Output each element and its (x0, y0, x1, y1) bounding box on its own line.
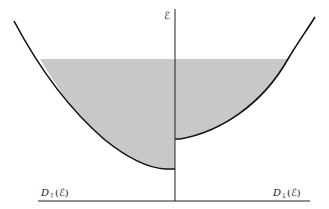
spin-up-label-main: D (40, 187, 49, 198)
spin-up-occupied-fill (40, 59, 175, 169)
spin-down-axis-label: D↓(ℰ) (272, 187, 301, 200)
spin-down-occupied-fill (175, 59, 288, 139)
spin-down-label-main: D (272, 187, 281, 198)
dos-diagram: ℰ D↑(ℰ) D↓(ℰ) (0, 0, 329, 209)
spin-up-axis-label: D↑(ℰ) (40, 187, 69, 200)
spin-up-label-arg: (ℰ) (55, 187, 69, 198)
energy-axis-label: ℰ (164, 10, 170, 21)
spin-down-label-arg: (ℰ) (287, 187, 301, 198)
